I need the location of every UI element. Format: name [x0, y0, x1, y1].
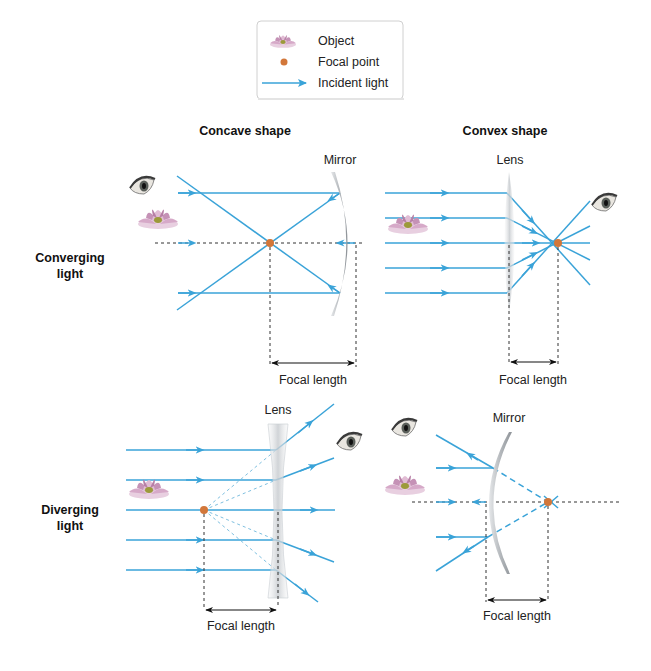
lotus-flower-icon	[129, 479, 169, 499]
focal-point	[554, 239, 562, 247]
eye-icon	[392, 419, 417, 436]
mirror-label: Mirror	[324, 153, 357, 167]
column-header-convex: Convex shape	[463, 124, 548, 138]
row-header-converging: Converging light	[35, 251, 104, 281]
focal-length-label: Focal length	[207, 619, 275, 633]
panel-convex-lens: Lens Focal length	[385, 153, 617, 387]
legend: Object Focal point Incident light	[257, 21, 404, 100]
panel-concave-mirror: Mirror Focal length	[130, 153, 365, 387]
eye-icon	[130, 177, 155, 194]
eye-icon	[337, 433, 362, 450]
convex-mirror-shape	[489, 432, 512, 574]
concave-lens-shape	[268, 424, 288, 598]
svg-text:light: light	[57, 267, 84, 281]
column-header-concave: Concave shape	[199, 124, 291, 138]
focal-point	[266, 239, 274, 247]
lens-label: Lens	[496, 153, 523, 167]
panel-convex-mirror: Mirror Focal length	[385, 411, 622, 623]
focal-point	[200, 506, 208, 514]
focal-length-label: Focal length	[279, 373, 347, 387]
row-header-diverging: Diverging light	[41, 503, 99, 533]
svg-text:Converging: Converging	[35, 251, 104, 265]
lotus-flower-icon	[385, 475, 425, 495]
optics-diagram: Object Focal point Incident light Concav…	[0, 0, 651, 671]
panel-concave-lens: Lens Focal length	[126, 403, 362, 633]
legend-label-incident-light: Incident light	[318, 76, 389, 90]
focal-length-label: Focal length	[499, 373, 567, 387]
focal-point	[544, 498, 552, 506]
mirror-label: Mirror	[493, 411, 526, 425]
lens-label: Lens	[264, 403, 291, 417]
lotus-flower-icon	[138, 209, 178, 229]
svg-text:light: light	[57, 519, 84, 533]
focal-point-dot-icon	[281, 59, 288, 66]
eye-icon	[592, 194, 617, 211]
legend-label-object: Object	[318, 34, 355, 48]
focal-length-label: Focal length	[483, 609, 551, 623]
legend-label-focal-point: Focal point	[318, 55, 380, 69]
svg-text:Diverging: Diverging	[41, 503, 99, 517]
